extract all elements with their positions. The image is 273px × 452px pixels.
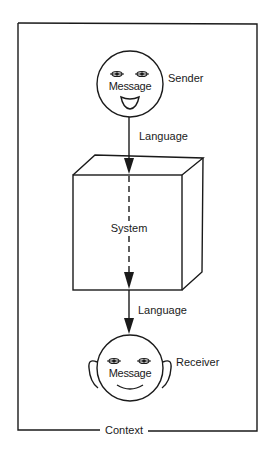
communication-model-diagram: Context Message Sender Language System <box>0 0 273 452</box>
language-label-bottom: Language <box>138 304 187 316</box>
arrow-system-to-receiver <box>124 290 134 334</box>
arrow-sender-to-system <box>124 117 134 174</box>
receiver-message-text: Message <box>109 367 152 379</box>
receiver-label: Receiver <box>176 356 220 368</box>
sender-message-text: Message <box>109 80 152 92</box>
language-label-top: Language <box>139 130 188 142</box>
sender-label: Sender <box>168 72 204 84</box>
system-label: System <box>111 222 148 234</box>
context-label: Context <box>105 424 143 436</box>
arrow-head-system-bottom <box>124 272 134 289</box>
